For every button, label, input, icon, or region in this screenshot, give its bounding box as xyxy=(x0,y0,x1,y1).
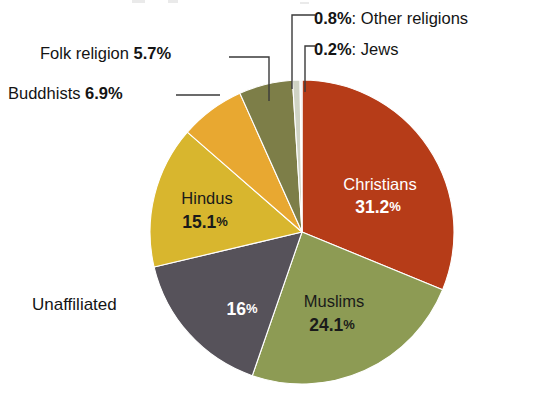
slice-label-other-religions: 0.8%: Other religions xyxy=(314,9,468,27)
folk-religion-name: Folk religion xyxy=(40,44,129,62)
slice-label-folk-religion: Folk religion 5.7% xyxy=(40,44,171,62)
buddhists-value: 6.9% xyxy=(85,84,123,102)
slice-label-unaffiliated-value: 16% xyxy=(226,299,257,319)
jews-separator: : xyxy=(352,40,357,58)
unaffiliated-name: Unaffiliated xyxy=(32,295,117,314)
slice-label-muslims-value: 24.1% xyxy=(309,315,355,335)
leader-line-buddhists xyxy=(176,92,220,98)
slice-label-unaffiliated-name: Unaffiliated xyxy=(32,296,117,315)
slice-label-hindus-value: 15.1% xyxy=(182,212,228,232)
slice-label-buddhists: Buddhists 6.9% xyxy=(8,84,123,102)
buddhists-name: Buddhists xyxy=(8,84,80,102)
slice-label-muslims-name: Muslims xyxy=(304,292,365,310)
jews-name: Jews xyxy=(361,40,399,58)
leader-line-folk-religion xyxy=(228,56,270,102)
pie-chart-figure: Christians 31.2% Muslims 24.1% 16% Hindu… xyxy=(0,0,559,397)
other-religions-value: 0.8% xyxy=(314,9,352,27)
jews-value: 0.2% xyxy=(314,40,352,58)
slice-label-jews: 0.2%: Jews xyxy=(314,40,398,58)
pie-slices xyxy=(150,80,454,384)
slice-label-hindus-name: Hindus xyxy=(181,189,232,207)
folk-religion-value: 5.7% xyxy=(134,44,172,62)
slice-label-christians-name: Christians xyxy=(343,175,416,193)
other-religions-separator: : xyxy=(352,9,357,27)
other-religions-name: Other religions xyxy=(361,9,468,27)
slice-label-christians-value: 31.2% xyxy=(355,197,401,217)
